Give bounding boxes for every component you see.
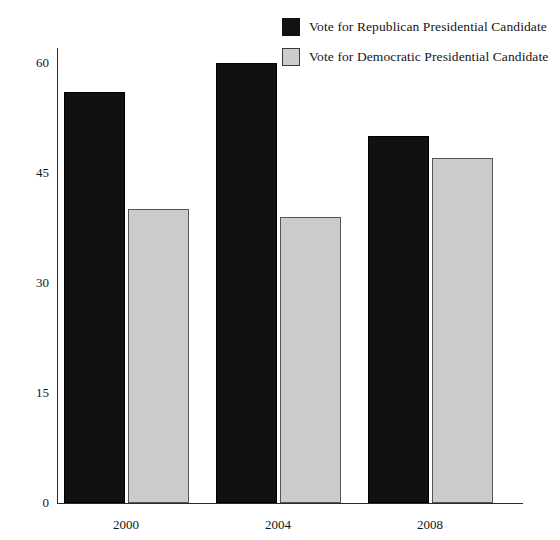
y-axis-tick-label: 30 [36,275,49,291]
bar-2004-republican [216,63,277,503]
bar-2000-republican [64,92,125,503]
plot-area: 015304560 200020042008 [57,48,523,504]
y-axis-tick-label: 45 [36,165,49,181]
bar-2008-democratic [432,158,493,503]
bar-2000-democratic [128,209,189,503]
y-axis-tick-label: 60 [36,55,49,71]
legend-item-republican: Vote for Republican Presidential Candida… [282,12,552,42]
bar-chart: Vote for Republican Presidential Candida… [0,0,560,540]
x-axis-line [57,503,523,504]
republican-swatch-icon [282,18,300,36]
y-axis-tick-label: 0 [43,495,50,511]
bar-2008-republican [368,136,429,503]
x-axis-tick-label: 2008 [417,517,443,533]
x-axis-tick-label: 2004 [265,517,291,533]
bar-2004-democratic [280,217,341,503]
y-axis-tick-label: 15 [36,385,49,401]
bars-layer [57,48,523,503]
x-axis-tick-label: 2000 [113,517,139,533]
legend-label-republican: Vote for Republican Presidential Candida… [309,20,547,34]
